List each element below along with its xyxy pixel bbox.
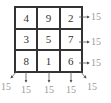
row-3-sum: 15 [91, 58, 101, 68]
row-2-sum: 15 [91, 37, 101, 47]
diagonal-left-sum: 15 [1, 82, 11, 92]
diagonal-right-sum: 15 [87, 82, 97, 92]
row-1-sum: 15 [91, 12, 101, 22]
column-2-sum: 15 [44, 85, 54, 95]
column-3-sum: 15 [66, 85, 76, 95]
column-1-sum: 15 [21, 85, 31, 95]
